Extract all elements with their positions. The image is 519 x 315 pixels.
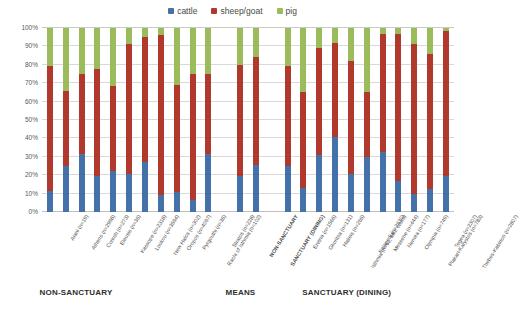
- bar-segment-cattle: [142, 162, 148, 212]
- bar-segment-cattle: [380, 152, 386, 212]
- bar-slot[interactable]: [422, 28, 438, 212]
- bar-slot[interactable]: [311, 28, 327, 212]
- legend-item-cattle[interactable]: cattle: [168, 6, 197, 16]
- stacked-bar: [364, 28, 370, 212]
- bar-segment-sheep-goat: [205, 74, 211, 154]
- stacked-bar: [63, 28, 69, 212]
- stacked-bar: [158, 28, 164, 212]
- bar-segment-pig: [126, 28, 132, 44]
- bar-slot[interactable]: [185, 28, 201, 212]
- bar-segment-pig: [158, 28, 164, 35]
- bar-segment-sheep-goat: [94, 69, 100, 177]
- bar-segment-sheep-goat: [332, 43, 338, 137]
- bar-slot[interactable]: [359, 28, 375, 212]
- bar-segment-pig: [253, 28, 259, 57]
- bar-slot[interactable]: [438, 28, 454, 212]
- stacked-bar: [79, 28, 85, 212]
- y-axis-tick-label: 20%: [25, 171, 38, 178]
- bar-segment-cattle: [174, 192, 180, 212]
- stacked-bar: [443, 28, 449, 212]
- bar-segment-pig: [190, 28, 196, 74]
- bar-segment-pig: [411, 28, 417, 44]
- bar-segment-sheep-goat: [158, 35, 164, 194]
- bar-slot[interactable]: [280, 28, 296, 212]
- bar-slot[interactable]: [248, 28, 264, 212]
- legend-label: pig: [286, 6, 297, 16]
- bar-segment-cattle: [158, 195, 164, 212]
- bar-segment-cattle: [300, 188, 306, 212]
- bar-segment-cattle: [364, 157, 370, 212]
- stacked-bar: [253, 28, 259, 212]
- bar-slot[interactable]: [343, 28, 359, 212]
- bar-segment-cattle: [190, 200, 196, 212]
- bar-slot[interactable]: [200, 28, 216, 212]
- bar-segment-cattle: [253, 165, 259, 212]
- bar-slot[interactable]: [375, 28, 391, 212]
- bar-slot[interactable]: [137, 28, 153, 212]
- y-axis-tick-label: 80%: [25, 60, 38, 67]
- stacked-bar: [316, 28, 322, 212]
- stacked-bar: [94, 28, 100, 212]
- bar-segment-cattle: [94, 176, 100, 212]
- bar-segment-sheep-goat: [380, 34, 386, 153]
- bar-segment-cattle: [348, 174, 354, 212]
- bar-slot[interactable]: [169, 28, 185, 212]
- bar-segment-sheep-goat: [316, 48, 322, 155]
- stacked-bar: [427, 28, 433, 212]
- stacked-bar: [190, 28, 196, 212]
- bar-segment-pig: [47, 28, 53, 66]
- y-axis-tick-label: 90%: [25, 42, 38, 49]
- y-axis-tick-label: 60%: [25, 97, 38, 104]
- bar-segment-pig: [427, 28, 433, 54]
- y-axis-tick-label: 40%: [25, 134, 38, 141]
- bar-slot[interactable]: [74, 28, 90, 212]
- stacked-bar: [126, 28, 132, 212]
- bar-slot[interactable]: [42, 28, 58, 212]
- x-axis-label: NON-SANCTUARY: [269, 214, 299, 258]
- bar-segment-sheep-goat: [190, 74, 196, 200]
- stacked-bar: [411, 28, 417, 212]
- bar-series-container: [42, 28, 454, 212]
- bar-segment-cattle: [110, 171, 116, 212]
- bar-segment-sheep-goat: [126, 44, 132, 175]
- legend-item-pig[interactable]: pig: [277, 6, 297, 16]
- y-axis-tick-label: 100%: [21, 24, 38, 31]
- bar-slot[interactable]: [90, 28, 106, 212]
- stacked-bar: [110, 28, 116, 212]
- stacked-bar: [380, 28, 386, 212]
- bar-segment-pig: [142, 28, 148, 37]
- x-axis-label: Aiani (n=19): [70, 214, 90, 242]
- bar-segment-pig: [364, 28, 370, 92]
- bar-slot[interactable]: [327, 28, 343, 212]
- bar-slot[interactable]: [232, 28, 248, 212]
- bar-segment-pig: [237, 28, 243, 65]
- bar-slot[interactable]: [296, 28, 312, 212]
- bar-slot[interactable]: [406, 28, 422, 212]
- bar-slot[interactable]: [105, 28, 121, 212]
- bar-segment-sheep-goat: [237, 65, 243, 176]
- group-caption: SANCTUARY (DINING): [302, 288, 391, 297]
- stacked-bar: [237, 28, 243, 212]
- bar-gap: [216, 28, 232, 212]
- bar-slot[interactable]: [121, 28, 137, 212]
- bar-segment-pig: [316, 28, 322, 48]
- bar-segment-sheep-goat: [427, 54, 433, 189]
- legend-swatch-icon: [211, 8, 217, 14]
- group-captions: NON-SANCTUARYMEANSSANCTUARY (DINING): [0, 288, 465, 304]
- x-axis-label: Thebes-Kabirion (n=2807): [482, 214, 519, 270]
- bar-segment-sheep-goat: [110, 86, 116, 171]
- bar-segment-cattle: [285, 166, 291, 212]
- bar-segment-sheep-goat: [364, 92, 370, 156]
- stacked-bar: [285, 28, 291, 212]
- bar-slot[interactable]: [58, 28, 74, 212]
- bar-segment-sheep-goat: [300, 92, 306, 188]
- bar-segment-pig: [332, 28, 338, 43]
- stacked-bar: [142, 28, 148, 212]
- legend-item-sheep-goat[interactable]: sheep/goat: [211, 6, 262, 16]
- bar-segment-sheep-goat: [253, 57, 259, 165]
- bar-slot[interactable]: [391, 28, 407, 212]
- legend-label: cattle: [177, 6, 197, 16]
- bar-slot[interactable]: [153, 28, 169, 212]
- legend-label: sheep/goat: [220, 6, 262, 16]
- bar-segment-pig: [63, 28, 69, 91]
